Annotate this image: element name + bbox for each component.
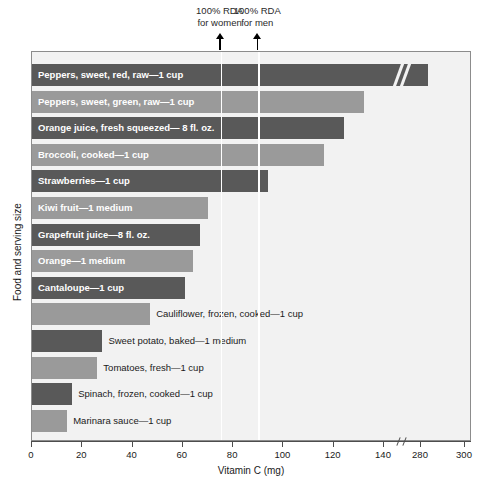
x-tick <box>182 442 183 447</box>
bar-label: Tomatoes, fresh—1 cup <box>103 363 203 373</box>
rda-women-arrow-icon <box>215 33 224 50</box>
bar-label: Peppers, sweet, green, raw—1 cup <box>38 97 194 107</box>
rda-men-line <box>258 52 260 440</box>
x-tick-label: 300 <box>456 449 472 460</box>
x-axis-label: Vitamin C (mg) <box>218 465 285 476</box>
bar-label: Orange juice, fresh squeezed— 8 fl. oz. <box>38 123 214 133</box>
bar-label: Broccoli, cooked—1 cup <box>38 150 149 160</box>
x-axis-break-icon <box>396 437 410 447</box>
x-tick <box>31 442 32 447</box>
bar-label: Sweet potato, baked—1 medium <box>108 336 246 346</box>
x-tick-label: 0 <box>28 449 33 460</box>
rda-women-line <box>221 52 223 440</box>
bar-label: Strawberries—1 cup <box>38 176 130 186</box>
y-axis-label: Food and serving size <box>12 203 23 301</box>
bar <box>32 410 67 432</box>
x-tick <box>81 442 82 447</box>
bar-label: Kiwi fruit—1 medium <box>38 203 132 213</box>
rda-men-arrow-icon <box>253 33 262 50</box>
x-tick-label: 280 <box>412 449 428 460</box>
x-tick <box>383 442 384 447</box>
bar-label: Peppers, sweet, red, raw—1 cup <box>38 70 183 80</box>
rda-men-line2: for men <box>197 17 317 29</box>
vitamin-c-bar-chart: 100% RDA for women 100% RDA for men Pepp… <box>0 0 485 485</box>
x-tick <box>464 442 465 447</box>
bar-label: Cauliflower, frozen, cooked—1 cup <box>156 309 303 319</box>
x-tick-label: 100 <box>274 449 290 460</box>
bar-label: Grapefruit juice—8 fl. oz. <box>38 230 150 240</box>
bar-label: Spinach, frozen, cooked—1 cup <box>78 389 213 399</box>
bar <box>32 383 72 405</box>
x-tick-label: 140 <box>375 449 391 460</box>
bar <box>32 303 150 325</box>
bar <box>32 357 97 379</box>
plot-area: Peppers, sweet, red, raw—1 cupPeppers, s… <box>31 51 471 441</box>
bar <box>32 330 102 352</box>
rda-men-line1: 100% RDA <box>234 5 281 16</box>
bar-label: Marinara sauce—1 cup <box>73 416 171 426</box>
bar-label: Orange—1 medium <box>38 256 125 266</box>
x-tick-label: 80 <box>227 449 238 460</box>
x-tick <box>232 442 233 447</box>
rda-men-annotation: 100% RDA for men <box>197 5 317 28</box>
bar-label: Cantaloupe—1 cup <box>38 283 124 293</box>
x-tick <box>282 442 283 447</box>
x-tick <box>420 442 421 447</box>
x-tick-label: 60 <box>177 449 188 460</box>
x-tick-label: 20 <box>76 449 87 460</box>
x-tick-label: 120 <box>325 449 341 460</box>
x-tick <box>333 442 334 447</box>
x-tick <box>132 442 133 447</box>
x-tick-label: 40 <box>126 449 137 460</box>
